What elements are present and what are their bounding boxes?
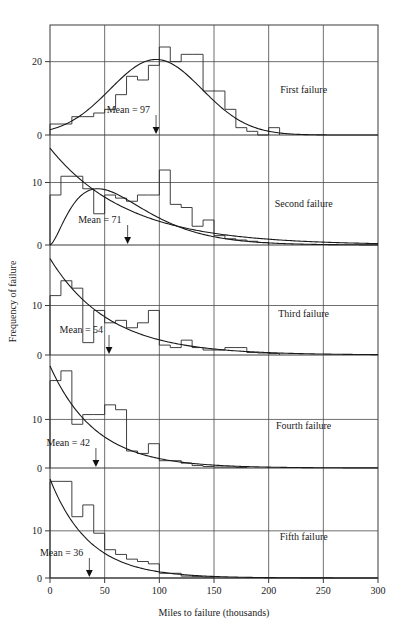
mean-annotation: Mean = 42 [46, 437, 89, 448]
x-tick-label: 200 [261, 585, 276, 596]
y-tick-label: 20 [32, 56, 42, 67]
histogram-outline [50, 481, 214, 578]
x-tick-label: 150 [207, 585, 222, 596]
y-tick-label: 0 [37, 130, 42, 141]
panel-label-5: Fifth failure [280, 531, 329, 542]
x-tick-label: 300 [371, 585, 386, 596]
mean-arrow-head [86, 570, 93, 577]
histogram-outline [50, 281, 280, 355]
mean-annotation: Mean = 71 [78, 214, 121, 225]
mean-annotation: Mean = 54 [60, 324, 103, 335]
grid-layer [50, 25, 378, 578]
axis-layer: 050100150200250300Miles to failure (thou… [7, 56, 386, 619]
mean-arrow-head [93, 460, 100, 467]
annotation-layer: Mean = 97First failureMean = 71Second fa… [40, 84, 333, 577]
panel-label-1: First failure [280, 84, 327, 95]
y-tick-label: 10 [32, 177, 42, 188]
x-tick-label: 50 [100, 585, 110, 596]
x-tick-label: 100 [152, 585, 167, 596]
x-axis-title: Miles to failure (thousands) [159, 607, 270, 619]
y-tick-label: 10 [32, 525, 42, 536]
mean-arrow-head [153, 127, 160, 134]
y-tick-label: 0 [37, 240, 42, 251]
panel-label-4: Fourth failure [276, 420, 332, 431]
mean-arrow-head [106, 347, 113, 354]
y-tick-label: 0 [37, 573, 42, 584]
y-axis-title: Frequency of failure [7, 260, 18, 342]
mean-arrow-head [124, 237, 131, 244]
y-tick-label: 0 [37, 350, 42, 361]
mean-annotation: Mean = 97 [107, 104, 150, 115]
mean-annotation: Mean = 36 [40, 547, 83, 558]
y-tick-label: 0 [37, 463, 42, 474]
panel-label-2: Second failure [275, 198, 334, 209]
y-tick-label: 10 [32, 300, 42, 311]
failure-histogram-chart: Mean = 97First failureMean = 71Second fa… [0, 0, 409, 641]
x-tick-label: 250 [316, 585, 331, 596]
x-tick-label: 0 [48, 585, 53, 596]
figure-container: Mean = 97First failureMean = 71Second fa… [0, 0, 409, 641]
histogram-outline [50, 47, 280, 135]
panel-label-3: Third failure [278, 308, 329, 319]
y-tick-label: 10 [32, 414, 42, 425]
